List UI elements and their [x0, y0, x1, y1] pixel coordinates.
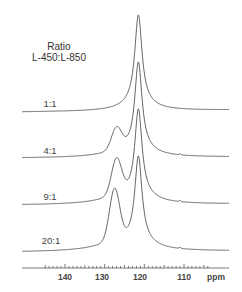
spectra-plot	[0, 0, 242, 292]
tick-label-130: 130	[87, 272, 117, 282]
tick-label-110: 110	[169, 272, 199, 282]
spectrum-trace-1-1	[22, 15, 229, 112]
tick-label-120: 120	[125, 272, 155, 282]
tick-label-140: 140	[50, 272, 80, 282]
spectrum-trace-4-1	[22, 62, 229, 158]
nmr-stacked-spectra-figure: Ratio L-450:L-850 1:1 4:1 9:1 20:1 140 1…	[0, 0, 242, 292]
ppm-axis	[22, 264, 229, 268]
spectrum-traces	[22, 15, 229, 251]
axis-unit-ppm: ppm	[207, 272, 225, 282]
